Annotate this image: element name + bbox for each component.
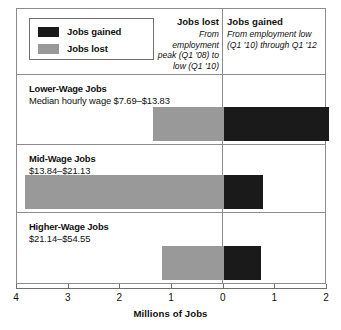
bar-jobs-gained-mid-wage [224,175,263,209]
row-title-lower-wage-jobs: Lower-Wage Jobs [29,83,170,95]
x-axis-tick-5 [274,284,275,289]
bar-jobs-lost-lower-wage [153,107,224,141]
legend-item-jobs-lost: Jobs lost [38,41,153,57]
row-subtitle-higher-wage-jobs: $21.14–$54.55 [29,233,109,245]
bar-jobs-gained-lower-wage [224,107,329,141]
bar-track-lower-wage-jobs [17,107,325,141]
row-title-higher-wage-jobs: Higher-Wage Jobs [29,221,109,233]
x-axis-tick-1 [68,284,69,289]
x-axis-tick-label-4: 0 [208,292,238,304]
header-title-jobs-lost: Jobs lost [157,16,219,28]
header-subtitle-jobs-lost: From employment peak (Q1 '08) to low (Q1… [157,29,219,71]
header-column-jobs-gained: Jobs gained From employment low (Q1 '10)… [227,16,321,50]
chart-row-lower-wage-jobs: Lower-Wage Jobs Median hourly wage $7.69… [17,75,325,145]
row-label-lower-wage-jobs: Lower-Wage Jobs Median hourly wage $7.69… [29,83,170,107]
legend-item-jobs-gained: Jobs gained [38,24,153,40]
header-column-jobs-lost: Jobs lost From employment peak (Q1 '08) … [157,16,219,71]
chart-header: Jobs gained Jobs lost Jobs lost From emp… [17,9,325,75]
x-axis-title: Millions of Jobs [0,308,341,319]
x-axis-tick-label-6: 2 [311,292,341,304]
x-axis-tick-label-2: 2 [104,292,134,304]
x-axis-tick-0 [16,284,17,289]
x-axis-tick-label-5: 1 [259,292,289,304]
chart-container: Jobs gained Jobs lost Jobs lost From emp… [0,0,341,330]
legend-swatch-jobs-gained [38,27,59,37]
chart-row-higher-wage-jobs: Higher-Wage Jobs $21.14–$54.55 [17,213,325,284]
legend-swatch-jobs-lost [38,44,59,54]
x-axis-tick-label-1: 3 [53,292,83,304]
x-axis-tick-label-3: 1 [156,292,186,304]
legend-label-jobs-gained: Jobs gained [67,27,121,37]
row-subtitle-lower-wage-jobs: Median hourly wage $7.69–$13.83 [29,95,170,107]
legend-label-jobs-lost: Jobs lost [67,44,108,54]
legend: Jobs gained Jobs lost [29,18,154,60]
row-title-mid-wage-jobs: Mid-Wage Jobs [29,153,95,165]
x-axis-tick-4 [223,284,224,289]
x-axis-tick-3 [171,284,172,289]
bar-track-higher-wage-jobs [17,246,325,280]
x-axis-tick-6 [326,284,327,289]
x-axis-tick-label-0: 4 [1,292,31,304]
bar-track-mid-wage-jobs [17,175,325,209]
header-subtitle-jobs-gained: From employment low (Q1 '10) through Q1 … [227,29,321,50]
chart-panel: Jobs gained Jobs lost Jobs lost From emp… [16,8,326,284]
header-title-jobs-gained: Jobs gained [227,16,321,28]
row-label-mid-wage-jobs: Mid-Wage Jobs $13.84–$21.13 [29,153,95,177]
chart-row-mid-wage-jobs: Mid-Wage Jobs $13.84–$21.13 [17,145,325,213]
bar-jobs-lost-mid-wage [25,175,224,209]
row-label-higher-wage-jobs: Higher-Wage Jobs $21.14–$54.55 [29,221,109,245]
x-axis-tick-2 [119,284,120,289]
bar-jobs-lost-higher-wage [162,246,223,280]
bar-jobs-gained-higher-wage [224,246,261,280]
